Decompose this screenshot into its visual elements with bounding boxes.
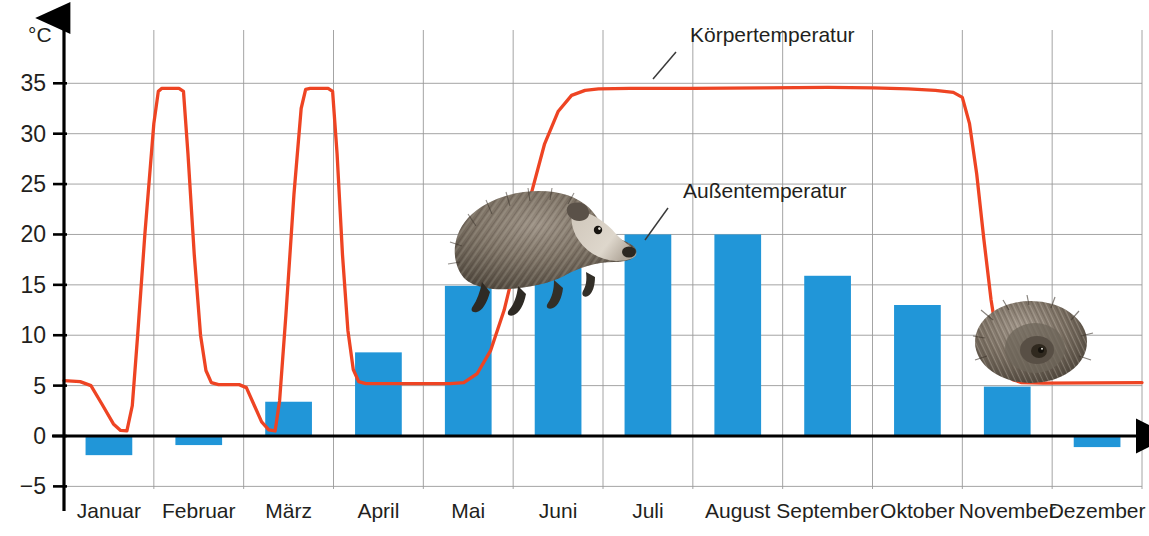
bar-januar bbox=[86, 436, 133, 455]
bar-juli bbox=[625, 234, 672, 436]
ytick-label-10: 10 bbox=[20, 322, 46, 348]
month-label-september: September bbox=[776, 499, 879, 522]
month-label-november: November bbox=[959, 499, 1056, 522]
bar-dezember bbox=[1074, 436, 1121, 447]
month-label-oktober: Oktober bbox=[880, 499, 955, 522]
annotations: KörpertemperaturAußentemperatur bbox=[645, 23, 855, 240]
temperature-chart: 35302520151050−5 JanuarFebruarMärzAprilM… bbox=[0, 0, 1149, 536]
ytick-label--5: −5 bbox=[20, 473, 46, 499]
bar-august bbox=[714, 234, 761, 436]
month-label-juni: Juni bbox=[539, 499, 578, 522]
month-label-märz: März bbox=[265, 499, 312, 522]
month-label-april: April bbox=[357, 499, 399, 522]
y-axis-unit-label: °C bbox=[28, 23, 52, 46]
month-label-august: August bbox=[705, 499, 771, 522]
ytick-label-35: 35 bbox=[20, 70, 46, 96]
ytick-label-20: 20 bbox=[20, 221, 46, 247]
bar-april bbox=[355, 352, 402, 436]
month-label-februar: Februar bbox=[162, 499, 236, 522]
month-label-juli: Juli bbox=[632, 499, 664, 522]
ytick-label-0: 0 bbox=[33, 423, 46, 449]
month-label-dezember: Dezember bbox=[1049, 499, 1146, 522]
month-label-januar: Januar bbox=[77, 499, 141, 522]
ytick-label-15: 15 bbox=[20, 272, 46, 298]
month-label-mai: Mai bbox=[451, 499, 485, 522]
annotation-leader-0 bbox=[653, 52, 676, 79]
ytick-label-30: 30 bbox=[20, 121, 46, 147]
annotation-label-körpertemperatur: Körpertemperatur bbox=[690, 23, 855, 46]
x-tick-labels: JanuarFebruarMärzAprilMaiJuniJuliAugustS… bbox=[77, 499, 1146, 522]
ytick-label-25: 25 bbox=[20, 171, 46, 197]
y-axis bbox=[53, 18, 67, 511]
chart-svg: 35302520151050−5 JanuarFebruarMärzAprilM… bbox=[0, 0, 1149, 536]
bar-november bbox=[984, 387, 1031, 436]
ytick-label-5: 5 bbox=[33, 373, 46, 399]
bar-september bbox=[804, 276, 851, 436]
y-tick-labels: 35302520151050−5 bbox=[20, 70, 46, 499]
annotation-label-außentemperatur: Außentemperatur bbox=[683, 179, 846, 202]
bar-oktober bbox=[894, 305, 941, 436]
